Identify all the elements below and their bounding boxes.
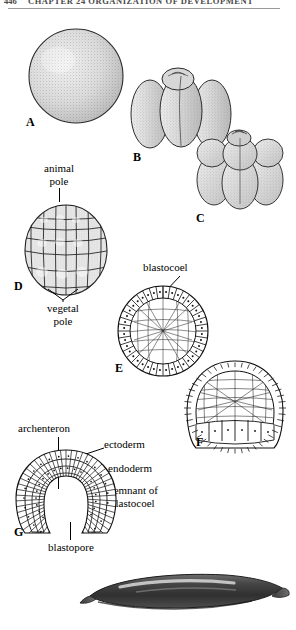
running-head-title: CHAPTER 24 ORGANIZATION OF DEVELOPMENT xyxy=(28,0,253,7)
callout-blastocoel-text: blastocoel xyxy=(143,261,188,273)
stage-letter-E: E xyxy=(115,362,123,374)
callout-archenteron: archenteron xyxy=(18,422,70,435)
callout-animal-pole: animal pole xyxy=(28,162,90,187)
callout-vegetal-pole-line2: pole xyxy=(32,315,94,328)
callout-remnant-line1: remnant of xyxy=(110,484,184,497)
callout-vegetal-pole-line1: vegetal xyxy=(32,302,94,315)
stage-A-zygote xyxy=(22,24,130,132)
callout-remnant-line2: blastocoel xyxy=(110,497,184,510)
leader-blastopore xyxy=(70,522,71,540)
stage-letter-A: A xyxy=(26,116,35,128)
callout-animal-pole-line2: pole xyxy=(28,175,90,188)
page-number: 446 xyxy=(4,0,17,6)
stage-C-eight-cell xyxy=(192,118,292,218)
callout-blastopore: blastopore xyxy=(36,541,106,554)
callout-blastopore-text: blastopore xyxy=(48,541,94,553)
callout-vegetal-pole: vegetal pole xyxy=(32,302,94,327)
stage-letter-D: D xyxy=(14,280,23,292)
leader-vegetal-pole xyxy=(46,288,80,302)
callout-remnant-blastocoel: remnant of blastocoel xyxy=(110,484,184,509)
stage-letter-G: G xyxy=(14,526,23,538)
textbook-page: 446 CHAPTER 24 ORGANIZATION OF DEVELOPME… xyxy=(0,0,296,630)
callout-blastocoel: blastocoel xyxy=(143,261,188,274)
stage-G-late-gastrula xyxy=(12,448,120,534)
stage-letter-C: C xyxy=(196,212,205,224)
stage-larva-photograph xyxy=(76,566,292,628)
stage-letter-F: F xyxy=(196,436,203,448)
stage-D-morula xyxy=(14,200,118,296)
callout-animal-pole-line1: animal xyxy=(28,162,90,175)
stage-letter-B: B xyxy=(133,151,141,163)
figure-developmental-stages: A xyxy=(0,10,296,630)
running-head: 446 CHAPTER 24 ORGANIZATION OF DEVELOPME… xyxy=(0,0,296,8)
header-rule xyxy=(8,8,280,9)
callout-archenteron-text: archenteron xyxy=(18,422,70,434)
